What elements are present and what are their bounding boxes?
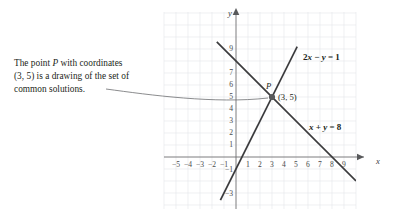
intersection-point-p [269, 94, 275, 100]
equation-label-2: x + y = 8 [308, 122, 342, 132]
equation-label-1: 2x − y = 1 [303, 52, 340, 62]
x-tick-label: 5 [294, 160, 298, 169]
x-tick-label: −3 [196, 160, 204, 169]
x-tick-label: 6 [306, 160, 310, 169]
y-tick-label: −1 [225, 165, 233, 174]
x-tick-label: 2 [258, 160, 262, 169]
x-tick-label: −4 [184, 160, 192, 169]
y-tick-label: 4 [229, 104, 233, 113]
figure-container: The point P with coordinates (3, 5) is a… [0, 0, 400, 221]
x-axis-label: x [375, 156, 380, 166]
equation-1-rhs: 1 [335, 52, 340, 62]
axes [164, 8, 364, 209]
x-tick-label: 7 [318, 160, 322, 169]
x-tick-label: −2 [208, 160, 216, 169]
coordinate-plane: x y −5 −4 −3 −2 −1 1 2 3 4 5 6 7 8 9 9 7… [0, 0, 400, 221]
y-tick-label: 2 [229, 128, 233, 137]
x-tick-label: 4 [282, 160, 286, 169]
x-tick-label: 3 [270, 160, 274, 169]
equation-2-equals: = [327, 122, 337, 132]
y-tick-label: 7 [229, 68, 233, 77]
y-axis-arrow [233, 8, 240, 15]
y-tick-label: 1 [229, 140, 233, 149]
x-tick-label: −5 [172, 160, 180, 169]
y-tick-label: 9 [229, 44, 233, 53]
y-axis-label: y [227, 8, 232, 18]
x-tick-label: 8 [330, 160, 334, 169]
equation-2-op: + [314, 122, 324, 132]
point-p-coords-label: (3, 5) [278, 92, 297, 102]
equation-1-op: − [312, 52, 322, 62]
y-tick-label: 6 [229, 80, 233, 89]
x-tick-label: 1 [246, 160, 250, 169]
grid-lines [164, 12, 356, 209]
leader-line [106, 89, 268, 100]
equation-1-equals: = [326, 52, 336, 62]
x-tick-labels: −5 −4 −3 −2 −1 1 2 3 4 5 6 7 8 9 [172, 160, 346, 169]
x-axis-arrow [357, 154, 364, 161]
equation-2-rhs: 8 [337, 122, 342, 132]
line-x-plus-y-equals-8 [217, 42, 356, 181]
y-tick-label: 3 [229, 116, 233, 125]
point-p-label: P [265, 81, 272, 91]
